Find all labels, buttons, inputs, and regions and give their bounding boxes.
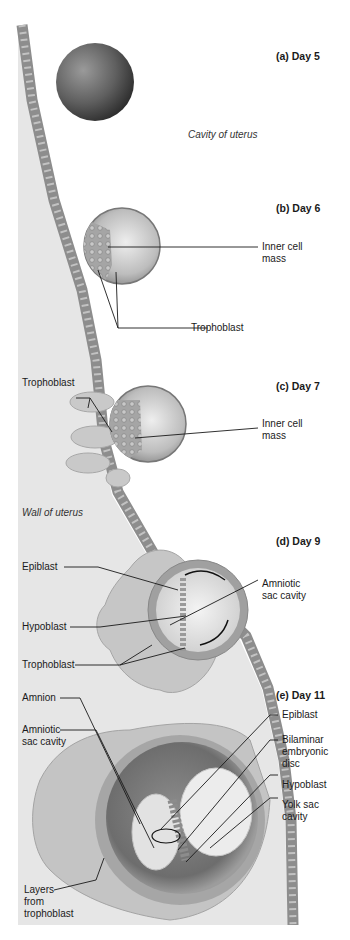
embryo-day9: [156, 568, 240, 652]
label-amnion-e: Amnion: [22, 692, 56, 704]
stage-label-b: (b) Day 6: [276, 202, 320, 214]
label-hypoblast-e: Hypoblast: [282, 779, 326, 791]
label-trophoblast-d: Trophoblast: [22, 659, 74, 671]
label-amniotic-sac-d: Amniotic sac cavity: [262, 578, 306, 602]
stage-label-e: (e) Day 11: [276, 689, 325, 701]
blastocyst-day5: [56, 43, 134, 121]
label-bilaminar-disc-e: Bilaminar embryonic disc: [282, 734, 328, 770]
label-trophoblast-c: Trophoblast: [22, 377, 74, 389]
label-epiblast-e: Epiblast: [282, 709, 318, 721]
label-hypoblast-d: Hypoblast: [22, 621, 66, 633]
stage-label-a: (a) Day 5: [276, 50, 320, 62]
stage-label-d: (d) Day 9: [276, 535, 320, 547]
label-inner-cell-mass-c: Inner cell mass: [262, 418, 303, 442]
region-cavity-label: Cavity of uterus: [188, 129, 257, 140]
label-layers-trophoblast-e: Layers from trophoblast: [24, 884, 73, 920]
label-yolk-sac-e: Yolk sac cavity: [282, 799, 319, 823]
label-inner-cell-mass-b: Inner cell mass: [262, 241, 303, 265]
stage-label-c: (c) Day 7: [276, 380, 320, 392]
label-amniotic-sac-e: Amniotic sac cavity: [22, 724, 66, 748]
region-wall-label: Wall of uterus: [22, 507, 83, 518]
label-epiblast-d: Epiblast: [22, 561, 58, 573]
label-trophoblast-b: Trophoblast: [191, 322, 243, 334]
